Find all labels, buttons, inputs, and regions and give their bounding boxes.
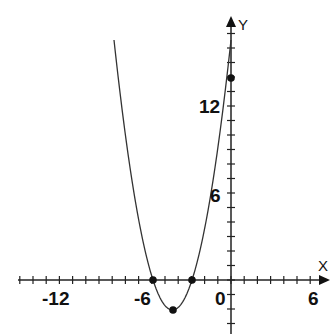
parabola-curve [114, 40, 231, 310]
x-axis-arrow-icon [319, 275, 330, 285]
parabola-graph: -12 -6 0 6 6 12 X Y [0, 0, 336, 334]
y-tick-label-12: 12 [199, 96, 220, 117]
root-point-left [149, 276, 157, 284]
y-axis-label: Y [238, 16, 248, 33]
x-tick-label-m12: -12 [42, 288, 69, 309]
x-tick-label-6: 6 [308, 288, 319, 309]
y-axis-arrow-icon [226, 16, 236, 27]
root-point-right [188, 276, 196, 284]
x-axis-label: X [318, 257, 328, 274]
y-tick-label-6: 6 [210, 185, 221, 206]
x-tick-label-0: 0 [215, 288, 226, 309]
y-intercept-point [227, 74, 235, 82]
vertex-point [169, 306, 177, 314]
x-tick-label-m6: -6 [134, 288, 151, 309]
